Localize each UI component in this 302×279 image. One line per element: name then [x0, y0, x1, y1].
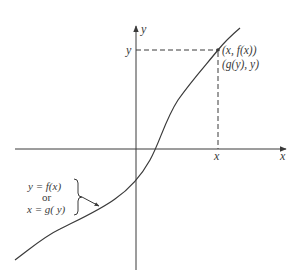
point-label-gy: (g(y), y): [222, 58, 259, 71]
point-label-fx: (x, f(x)): [222, 44, 257, 57]
point-marker: [216, 48, 220, 52]
y-axis-label: y: [140, 22, 147, 36]
annotation-or: or: [42, 191, 52, 203]
annotation-arrow: [82, 197, 99, 206]
x-axis-label: x: [279, 149, 286, 163]
x-value-label: x: [213, 149, 220, 163]
annotation-x-equals-gy: x = g( y): [26, 203, 66, 216]
function-curve: [15, 28, 240, 260]
brace: [74, 179, 82, 215]
y-value-label: y: [125, 43, 132, 57]
function-inverse-diagram: y x y x (x, f(x)) (g(y), y) y = f(x) or …: [0, 0, 302, 279]
